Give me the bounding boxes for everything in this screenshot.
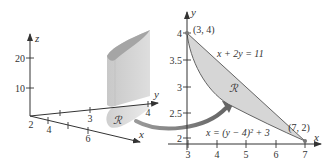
y-axis-label-3d: y: [153, 88, 159, 100]
left-3d-plot: 20 10 z 3 4 y 2 4 6 x ℛ: [15, 30, 159, 144]
x-tick-3: 3: [186, 149, 191, 160]
figure: 20 10 z 3 4 y 2 4 6 x ℛ 4 3.5: [0, 0, 334, 166]
y-tick-4: 4: [146, 107, 151, 118]
y-axis-label: y: [190, 6, 196, 18]
point-label-7-2: (7, 2): [288, 122, 310, 134]
y-tick-3-5: 3.5: [170, 55, 183, 66]
region-label: ℛ: [229, 82, 239, 94]
solid: [107, 30, 150, 107]
y-tick-2-5: 2.5: [170, 108, 183, 119]
x-axis-label: x: [313, 131, 319, 143]
x-tick-6: 6: [274, 149, 279, 160]
z-tick-10: 10: [15, 83, 25, 94]
x-tick-4: 4: [215, 149, 220, 160]
point-7-2: [303, 139, 307, 143]
y-tick-2: 2: [177, 133, 182, 144]
x-tick-6: 6: [86, 133, 91, 144]
parabola-equation: x = (y − 4)² + 3: [205, 127, 270, 139]
z-tick-20: 20: [15, 53, 25, 64]
y-tick-4: 4: [177, 28, 182, 39]
x-tick-5: 5: [244, 149, 249, 160]
x-axis-label-3d: x: [138, 128, 144, 140]
x-tick-2: 2: [29, 119, 34, 130]
z-axis-label: z: [34, 32, 40, 44]
line-equation: x + 2y = 11: [216, 48, 264, 59]
y-tick-3: 3: [88, 113, 93, 124]
point-label-3-4: (3, 4): [193, 24, 215, 36]
point-3-4: [185, 31, 189, 35]
region-label-3d: ℛ: [113, 114, 123, 126]
x-tick-7: 7: [303, 149, 308, 160]
y-tick-3: 3: [177, 82, 182, 93]
x-tick-4: 4: [47, 124, 52, 135]
right-2d-plot: 4 3.5 3 2.5 2 y 3 4 5 6 7 x (3, 4) (7, 2…: [168, 6, 321, 160]
